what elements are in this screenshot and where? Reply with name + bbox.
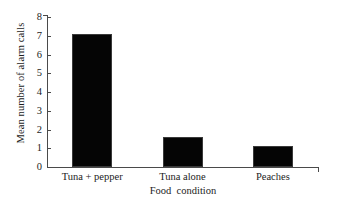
x-axis-right-cap: [318, 167, 319, 172]
y-axis-tick-mark: [47, 111, 51, 112]
x-axis-line: [47, 167, 319, 168]
y-axis-tick-mark: [47, 36, 51, 37]
y-axis-tick-label: 5: [26, 66, 42, 79]
y-axis-tick-label: 4: [26, 85, 42, 98]
bar-chart: Mean number of alarm calls 012345678 Tun…: [0, 0, 337, 206]
y-axis-tick-label: 8: [26, 10, 42, 23]
y-axis-tick-mark: [47, 167, 51, 168]
y-axis-top-cap: [43, 15, 48, 16]
y-axis-tick-label: 3: [26, 104, 42, 117]
y-axis-tick-label: 7: [26, 29, 42, 42]
x-axis-title: Food condition: [47, 184, 319, 198]
bar: [72, 34, 112, 167]
y-axis-tick-mark: [47, 17, 51, 18]
x-axis-category-label: Peaches: [228, 170, 318, 184]
y-axis-tick-mark: [47, 130, 51, 131]
y-axis-tick-mark: [47, 73, 51, 74]
y-axis-tick-label: 1: [26, 141, 42, 154]
bar: [163, 137, 203, 167]
x-axis-category-label: Tuna + pepper: [47, 170, 137, 184]
y-axis-tick-mark: [47, 92, 51, 93]
y-axis-tick-label: 0: [26, 160, 42, 173]
x-axis-category-label: Tuna alone: [137, 170, 227, 184]
y-axis-tick-label: 6: [26, 48, 42, 61]
y-axis-tick-label: 2: [26, 123, 42, 136]
y-axis-tick-mark: [47, 148, 51, 149]
y-axis-tick-mark: [47, 55, 51, 56]
bar: [253, 146, 293, 167]
